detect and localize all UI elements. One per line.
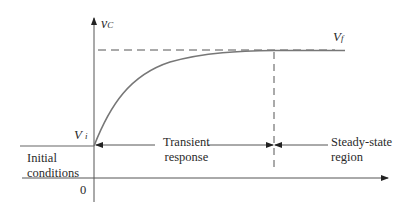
initial-conditions-line1: Initial (27, 151, 79, 166)
initial-value-sub: i (85, 131, 88, 141)
y-axis-label: vC (101, 17, 113, 32)
steady-state-line2: region (331, 150, 392, 165)
initial-conditions-line2: conditions (27, 166, 79, 181)
y-axis-label-sub: C (107, 20, 113, 30)
initial-value-main: V (74, 127, 82, 142)
transient-line2: response (163, 150, 210, 165)
response-diagram (0, 0, 407, 214)
origin-label: 0 (80, 183, 86, 197)
transient-line1: Transient (163, 135, 210, 150)
steady-state-line1: Steady-state (331, 135, 392, 150)
transient-response-label: Transient response (163, 135, 210, 165)
steady-state-label: Steady-state region (331, 135, 392, 165)
final-value-label: Vf (333, 30, 343, 45)
final-value-main: V (333, 29, 341, 44)
initial-conditions-label: Initial conditions (27, 151, 79, 181)
initial-value-label: V i (74, 128, 87, 143)
final-value-sub: f (341, 33, 344, 43)
response-curve (94, 51, 345, 147)
